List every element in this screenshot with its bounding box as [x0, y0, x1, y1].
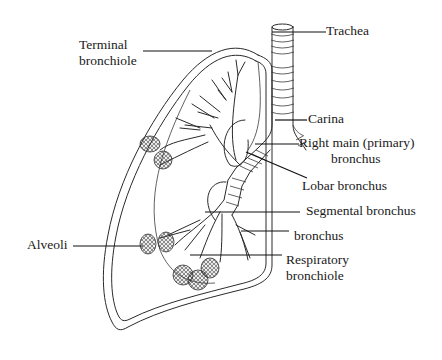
bronchial-tree: [160, 60, 270, 262]
label-terminal-bronchiole-line1: Terminal: [79, 37, 137, 53]
label-terminal-bronchiole: Terminal bronchiole: [79, 37, 137, 69]
label-right-main-bronchus-line2: bronchus: [299, 151, 414, 167]
label-bronchus: bronchus: [294, 228, 344, 244]
label-respiratory-bronchiole-line2: bronchiole: [286, 268, 349, 284]
label-lobar-bronchus: Lobar bronchus: [302, 178, 387, 194]
label-carina: Carina: [308, 111, 344, 127]
label-terminal-bronchiole-line2: bronchiole: [79, 53, 137, 69]
lung-outline: [103, 48, 272, 330]
alveoli-clusters: [140, 136, 219, 290]
label-respiratory-bronchiole-line1: Respiratory: [286, 252, 349, 268]
label-right-main-bronchus: Right main (primary) bronchus: [299, 135, 414, 167]
label-respiratory-bronchiole: Respiratory bronchiole: [286, 252, 349, 284]
trachea-shape: [258, 24, 306, 150]
label-trachea: Trachea: [326, 23, 369, 39]
label-alveoli: Alveoli: [27, 237, 68, 253]
leader-lobar-bronchus: [246, 152, 307, 178]
label-segmental-bronchus: Segmental bronchus: [306, 203, 416, 219]
label-right-main-bronchus-line1: Right main (primary): [299, 135, 414, 151]
